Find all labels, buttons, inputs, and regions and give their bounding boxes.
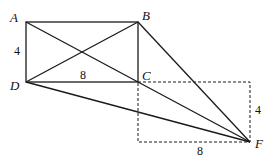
measure-dashed-width: 8 [197, 144, 203, 158]
label-d: D [9, 78, 20, 93]
measure-ad: 4 [14, 44, 20, 58]
label-a: A [9, 10, 18, 25]
label-b: B [142, 8, 150, 23]
measure-dashed-height: 4 [255, 103, 261, 117]
segment-cf [138, 82, 250, 142]
label-c: C [142, 68, 151, 83]
geometry-diagram: A B C D F 4 8 4 8 [0, 0, 273, 161]
label-f: F [254, 136, 264, 151]
measure-dc: 8 [80, 68, 86, 82]
